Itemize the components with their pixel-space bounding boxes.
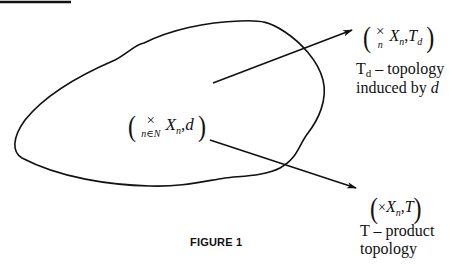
topology-symbol: T <box>408 27 417 44</box>
close-paren: ) <box>414 193 422 223</box>
open-paren: ( <box>363 22 371 52</box>
set-symbol: X <box>166 115 176 134</box>
set-symbol: X <box>386 198 396 215</box>
arrow-to-metric-topology <box>213 30 352 83</box>
space-region-outline <box>15 21 324 186</box>
product-symbol: × <box>378 200 386 215</box>
description-line-2: topology <box>360 240 434 258</box>
topology-name: T <box>356 60 366 77</box>
metric-topology-space-label: ( × n Xn,Td ) <box>363 24 434 50</box>
product-symbol: × <box>141 113 160 128</box>
figure-caption: FIGURE 1 <box>190 236 242 248</box>
close-paren: ) <box>198 111 206 141</box>
open-paren: ( <box>370 193 378 223</box>
product-operator: × n <box>376 24 384 50</box>
topology-name-subscript: d <box>366 67 372 79</box>
description-line-2: induced by d <box>356 79 444 97</box>
product-index: n <box>376 40 384 50</box>
topology-symbol: T <box>405 198 414 215</box>
set-symbol: X <box>389 27 399 44</box>
open-paren: ( <box>128 111 136 141</box>
product-symbol: × <box>376 24 384 39</box>
product-topology-space-label: (×Xn,T) <box>370 196 422 220</box>
set-subscript: n <box>396 207 401 218</box>
arrow-to-product-topology <box>210 140 356 188</box>
description-line-1: T – product <box>360 222 434 240</box>
center-space-label: ( × n∈N Xn,d ) <box>128 113 206 139</box>
description-text: – topology <box>371 60 444 77</box>
topology-subscript: d <box>417 36 422 47</box>
product-operator: × n∈N <box>141 113 160 139</box>
set-subscript: n <box>176 125 181 136</box>
metric-symbol: d <box>185 115 194 134</box>
metric-topology-description: Td – topology induced by d <box>356 60 444 97</box>
set-subscript: n <box>399 36 404 47</box>
description-line-1: Td – topology <box>356 60 444 79</box>
product-topology-description: T – product topology <box>360 222 434 258</box>
metric-variable: d <box>431 79 439 96</box>
close-paren: ) <box>426 22 434 52</box>
product-index: n∈N <box>141 129 160 139</box>
description-text: induced by <box>356 79 431 96</box>
